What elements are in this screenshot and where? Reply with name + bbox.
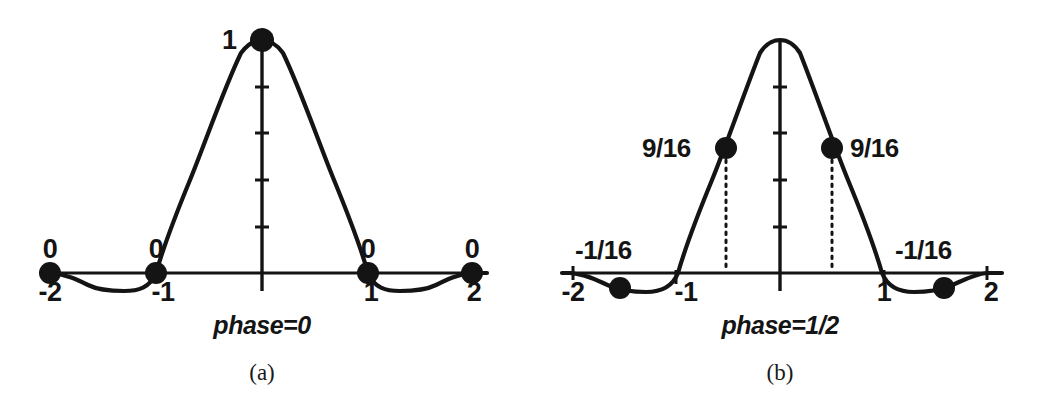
sub-caption-b: (b) <box>767 361 794 384</box>
plot-b-svg <box>520 0 1043 402</box>
sample-value-b-left-outer: -1/16 <box>575 237 632 263</box>
x-tick-label-b-m2: -2 <box>561 279 584 306</box>
x-tick-label-b-p1: 1 <box>877 279 892 306</box>
x-tick-label-a-p1: 1 <box>364 279 379 306</box>
figure-container: 0 0 1 0 0 -2 -1 1 2 phase=0 (a) <box>0 0 1043 402</box>
x-tick-label-a-p2: 2 <box>467 279 482 306</box>
sample-value-b-right-inner: 9/16 <box>850 135 899 161</box>
sample-point-b-p15 <box>933 277 955 299</box>
sample-value-a-p1: 0 <box>361 236 376 263</box>
sample-value-b-left-inner: 9/16 <box>642 135 691 161</box>
x-tick-label-b-p2: 2 <box>984 279 999 306</box>
sample-point-b-p05 <box>821 137 843 159</box>
phase-caption-a: phase=0 <box>213 313 310 338</box>
x-tick-label-a-m1: -1 <box>151 279 174 306</box>
sample-value-b-right-outer: -1/16 <box>895 237 952 263</box>
sample-point-b-m05 <box>715 137 737 159</box>
plot-a-svg <box>0 0 520 402</box>
plot-panel-b: 9/16 9/16 -1/16 -1/16 -2 -1 1 2 phase=1/… <box>520 0 1043 402</box>
sub-caption-a: (a) <box>249 361 275 384</box>
x-tick-label-a-m2: -2 <box>38 279 61 306</box>
kernel-curve-a <box>42 40 487 291</box>
sample-value-a-peak: 1 <box>222 27 237 54</box>
phase-caption-b: phase=1/2 <box>721 313 838 338</box>
x-tick-label-b-m1: -1 <box>674 279 697 306</box>
sample-point-a-0 <box>250 28 274 52</box>
plot-panel-a: 0 0 1 0 0 -2 -1 1 2 phase=0 (a) <box>0 0 520 402</box>
sample-value-a-m2: 0 <box>43 236 58 263</box>
sample-value-a-m1: 0 <box>149 236 164 263</box>
sample-value-a-p2: 0 <box>465 236 480 263</box>
sample-point-b-m15 <box>609 277 631 299</box>
